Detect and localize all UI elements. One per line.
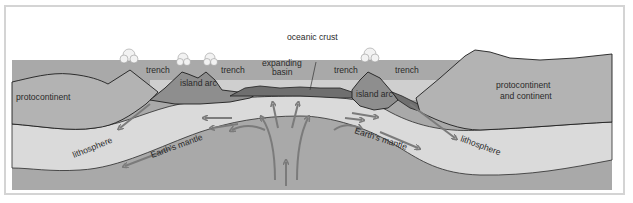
label-trench-3: trench — [334, 65, 358, 75]
label-trench-2: trench — [221, 65, 245, 75]
label-protocontinent-right-line1: protocontinent — [496, 80, 551, 90]
label-island-arc-left: island arc — [180, 78, 217, 88]
label-protocontinent-left: protocontinent — [16, 92, 71, 102]
label-expanding-basin-line2: basin — [272, 67, 293, 77]
label-trench-1: trench — [146, 65, 170, 75]
label-island-arc-right: island arc — [356, 89, 393, 99]
plate-tectonics-diagram: protocontinent trench island arc trench … — [0, 0, 633, 203]
oceanic-crust-strip — [230, 86, 360, 98]
label-trench-4: trench — [395, 65, 419, 75]
label-protocontinent-right-line2: and continent — [500, 91, 552, 101]
label-oceanic-crust: oceanic crust — [287, 32, 338, 42]
